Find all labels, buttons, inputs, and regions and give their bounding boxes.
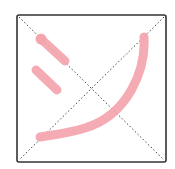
practice-grid — [0, 0, 175, 169]
stroke-1-start-dot — [36, 34, 47, 45]
